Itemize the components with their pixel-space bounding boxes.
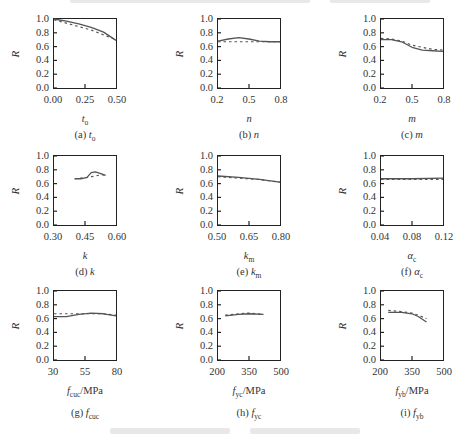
y-tick-label: 0.0 (27, 220, 49, 230)
y-tick-label: 0.2 (191, 341, 213, 351)
y-tick-label: 0.6 (354, 179, 376, 189)
y-tick-label: 0.4 (354, 55, 376, 65)
y-axis-label: R (173, 320, 185, 332)
x-tick-label: 0.12 (426, 232, 462, 242)
x-tick-label: 80 (99, 367, 135, 377)
plot-area (53, 18, 117, 89)
caption-prefix: (h) (237, 407, 252, 418)
x-tick-label: 0.65 (231, 232, 267, 242)
caption-prefix: (i) (401, 407, 414, 418)
x-tick-label: 0.30 (35, 232, 71, 242)
label-subscript: m (248, 255, 254, 264)
y-tick-label: 0.6 (354, 314, 376, 324)
x-tick-label: 0.5 (394, 95, 430, 105)
label-variable: m (415, 129, 423, 140)
caption-prefix: (g) (71, 407, 86, 418)
y-tick-label: 1.0 (354, 14, 376, 24)
y-tick-label: 0.6 (191, 179, 213, 189)
y-tick-label: 0.0 (354, 220, 376, 230)
y-tick-label: 0.6 (27, 42, 49, 52)
panel-caption: (i) fyb (352, 407, 465, 421)
y-tick-label: 0.4 (191, 55, 213, 65)
panel-caption: (g) fcuc (25, 407, 145, 421)
y-axis-label: R (9, 320, 21, 332)
panel-caption: (a) to (25, 129, 145, 143)
plot-svg (218, 291, 282, 362)
plot-area (380, 290, 444, 361)
y-tick-label: 0.2 (354, 341, 376, 351)
caption-prefix: (a) (75, 129, 89, 140)
label-subscript: m (256, 271, 262, 280)
label-subscript: yc (254, 412, 261, 421)
y-tick-label: 1.0 (191, 151, 213, 161)
label-variable: k (83, 250, 88, 261)
plot-svg (54, 156, 118, 227)
panel-caption: (d) k (25, 266, 145, 280)
y-tick-label: 0.6 (191, 314, 213, 324)
x-tick-label: 0.60 (99, 232, 135, 242)
y-tick-label: 0.4 (27, 327, 49, 337)
series-solid-line (54, 19, 116, 40)
y-tick-label: 0.2 (354, 206, 376, 216)
label-subscript: c (420, 271, 423, 280)
label-unit: /MPa (243, 385, 266, 396)
y-tick-label: 0.0 (354, 83, 376, 93)
x-tick-label: 350 (394, 367, 430, 377)
x-tick-label: 0.5 (231, 95, 267, 105)
plot-area (217, 290, 281, 361)
x-axis-label: fcuc/MPa (35, 385, 135, 399)
y-tick-label: 0.2 (27, 69, 49, 79)
x-tick-label: 200 (199, 367, 235, 377)
x-tick-label: 500 (426, 367, 462, 377)
caption-prefix: (e) (237, 266, 251, 277)
y-tick-label: 0.4 (191, 192, 213, 202)
y-tick-label: 0.6 (27, 179, 49, 189)
x-tick-label: 500 (263, 367, 299, 377)
x-axis-label: k (35, 250, 135, 264)
plot-svg (54, 291, 118, 362)
label-subscript: o (85, 118, 89, 127)
x-tick-label: 0.2 (199, 95, 235, 105)
y-tick-label: 0.2 (191, 206, 213, 216)
series-solid-line (218, 38, 280, 42)
y-tick-label: 0.4 (27, 55, 49, 65)
y-tick-label: 0.4 (191, 327, 213, 337)
y-tick-label: 1.0 (191, 14, 213, 24)
y-axis-label: R (173, 48, 185, 60)
series-dashed-line (388, 310, 426, 318)
series-solid-line (75, 172, 106, 179)
y-tick-label: 0.8 (354, 300, 376, 310)
plot-svg (381, 19, 445, 90)
y-tick-label: 0.4 (354, 327, 376, 337)
plot-svg (381, 156, 445, 227)
x-tick-label: 0.04 (362, 232, 398, 242)
y-axis-label: R (336, 48, 348, 60)
x-tick-label: 350 (231, 367, 267, 377)
plot-area (53, 290, 117, 361)
plot-area (53, 155, 117, 226)
x-axis-label: n (199, 113, 299, 127)
label-variable: n (254, 129, 259, 140)
y-tick-label: 0.6 (354, 42, 376, 52)
y-axis-label: R (336, 320, 348, 332)
y-tick-label: 0.2 (27, 206, 49, 216)
panel-caption: (b) n (189, 129, 309, 143)
x-tick-label: 55 (67, 367, 103, 377)
caption-prefix: (c) (401, 129, 415, 140)
y-tick-label: 1.0 (27, 151, 49, 161)
y-tick-label: 0.8 (354, 165, 376, 175)
label-subscript: yc (236, 390, 243, 399)
label-subscript: o (92, 134, 96, 143)
y-tick-label: 0.8 (191, 300, 213, 310)
y-tick-label: 0.0 (27, 83, 49, 93)
x-tick-label: 0.25 (67, 95, 103, 105)
faded-text-remnant (250, 428, 360, 434)
y-tick-label: 0.8 (27, 28, 49, 38)
x-axis-label: m (362, 113, 462, 127)
label-subscript: yb (398, 390, 406, 399)
x-axis-label: fyb/MPa (362, 385, 462, 399)
y-tick-label: 1.0 (191, 286, 213, 296)
panel-caption: (h) fyc (189, 407, 309, 421)
x-axis-label: αc (362, 250, 462, 264)
y-tick-label: 0.6 (27, 314, 49, 324)
